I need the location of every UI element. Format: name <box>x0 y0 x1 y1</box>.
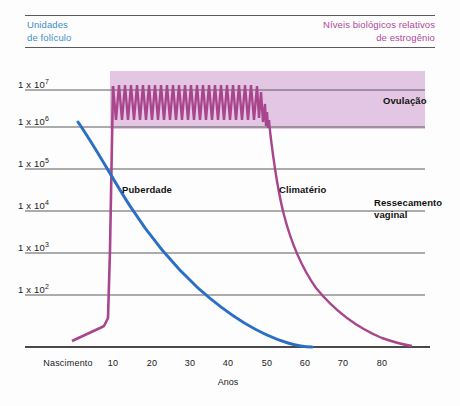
figure-container: Unidades de folículo Níveis biológicos r… <box>0 0 460 406</box>
x-tick-label-80: 80 <box>377 358 387 368</box>
annotation-ressecamento-vaginal: Ressecamento vaginal <box>374 197 442 221</box>
follicle-units-curve <box>78 122 312 347</box>
estrogen-curve-decline <box>270 131 412 346</box>
x-tick-label-10: 10 <box>108 358 118 368</box>
y-tick-label-1e4: 1 x 104 <box>18 200 49 211</box>
y-tick-label-1e5: 1 x 105 <box>18 158 49 169</box>
x-tick-label-nascimento: Nascimento <box>43 358 93 368</box>
y-tick-label-1e7: 1 x 107 <box>18 79 49 90</box>
x-tick-label-30: 30 <box>185 358 195 368</box>
annotation-ovulacao: Ovulação <box>383 95 427 106</box>
x-tick-label-20: 20 <box>147 358 157 368</box>
y-tick-label-1e6: 1 x 106 <box>18 116 49 127</box>
x-tick-label-50: 50 <box>262 358 272 368</box>
y-tick-label-1e2: 1 x 102 <box>18 284 49 295</box>
x-tick-label-60: 60 <box>300 358 310 368</box>
annotation-climaterio: Climatério <box>279 184 326 195</box>
x-tick-label-70: 70 <box>338 358 348 368</box>
annotation-puberdade: Puberdade <box>122 184 172 195</box>
x-axis-title: Anos <box>218 377 239 387</box>
y-tick-label-1e3: 1 x 103 <box>18 242 49 253</box>
x-tick-label-40: 40 <box>223 358 233 368</box>
